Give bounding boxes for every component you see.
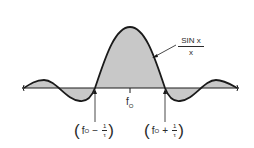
left-frac-den: τ xyxy=(103,131,105,138)
left-label-operator: − xyxy=(92,125,98,136)
center-frequency-label: fO xyxy=(126,97,133,109)
right-label-fraction: 1 τ xyxy=(172,123,177,138)
right-close-paren: ) xyxy=(178,122,184,139)
curve-label-numerator: SIN x xyxy=(178,36,204,47)
curve-label-denominator: x xyxy=(178,47,204,57)
right-open-paren: ( xyxy=(144,122,150,139)
left-label-fraction: 1 τ xyxy=(102,123,107,138)
right-label-operator: + xyxy=(162,125,168,136)
left-open-paren: ( xyxy=(74,122,80,139)
center-label-subscript: O xyxy=(129,103,134,109)
sinc-diagram xyxy=(0,0,254,148)
left-label-subscript: O xyxy=(84,128,89,134)
left-frac-num: 1 xyxy=(102,123,107,131)
left-zero-label: ( fO − 1 τ ) xyxy=(74,122,114,139)
right-frac-num: 1 xyxy=(172,123,177,131)
right-frac-den: τ xyxy=(173,131,175,138)
right-zero-label: ( fO + 1 τ ) xyxy=(144,122,184,139)
right-label-subscript: O xyxy=(154,128,159,134)
left-close-paren: ) xyxy=(108,122,114,139)
curve-label: SIN x x xyxy=(178,36,204,57)
